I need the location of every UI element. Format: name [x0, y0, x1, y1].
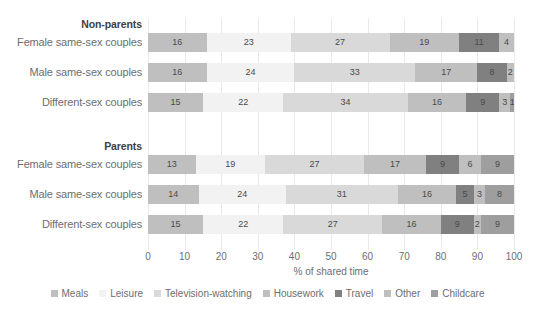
bar-segment-meals[interactable]: 13: [148, 155, 196, 174]
bar-segment-value: 16: [172, 38, 182, 47]
bar-segment-housework[interactable]: 16: [382, 215, 441, 234]
bar-segment-value: 27: [310, 160, 320, 169]
x-tick-label: 90: [472, 251, 483, 262]
bar-row[interactable]: 15222716929: [148, 215, 514, 234]
group-header-parents: Parents: [0, 140, 142, 152]
bar-segment-value: 34: [341, 98, 351, 107]
bar-segment-meals[interactable]: 15: [148, 215, 203, 234]
bar-segment-value: 27: [328, 220, 338, 229]
bar-segment-travel[interactable]: 9: [466, 93, 499, 112]
bar-segment-television-watching[interactable]: 27: [265, 155, 364, 174]
bar-segment-childcare[interactable]: 1: [510, 93, 514, 112]
bar-segment-value: 17: [441, 68, 451, 77]
legend-label: Leisure: [110, 288, 143, 299]
bar-segment-leisure[interactable]: 24: [207, 63, 295, 82]
legend-label: Other: [395, 288, 420, 299]
bar-segment-childcare[interactable]: 9: [481, 215, 514, 234]
bar-segment-value: 17: [390, 160, 400, 169]
bar-segment-value: 19: [419, 38, 429, 47]
bar-segment-other[interactable]: 2: [507, 63, 514, 82]
x-axis-title: % of shared time: [148, 266, 514, 277]
bar-segment-meals[interactable]: 15: [148, 93, 203, 112]
bar-segment-meals[interactable]: 16: [148, 33, 207, 52]
bar-segment-leisure[interactable]: 22: [203, 93, 284, 112]
bar-segment-meals[interactable]: 14: [148, 185, 199, 204]
bar-segment-childcare[interactable]: 8: [485, 185, 514, 204]
legend-item-television-watching[interactable]: Television-watching: [154, 288, 252, 299]
bar-segment-value: 5: [463, 190, 468, 199]
bar-segment-travel[interactable]: 9: [441, 215, 474, 234]
bar-segment-travel[interactable]: 5: [456, 185, 474, 204]
x-tick-label: 10: [179, 251, 190, 262]
bar-row[interactable]: 14243116538: [148, 185, 514, 204]
bar-segment-television-watching[interactable]: 34: [283, 93, 407, 112]
bar-segment-travel[interactable]: 8: [477, 63, 506, 82]
legend-swatch-icon: [335, 290, 342, 297]
bar-segment-value: 2: [475, 220, 480, 229]
bar-segment-value: 9: [495, 220, 500, 229]
bar-segment-value: 23: [244, 38, 254, 47]
bar-segment-meals[interactable]: 16: [148, 63, 207, 82]
bar-segment-value: 16: [406, 220, 416, 229]
bar-segment-travel[interactable]: 11: [459, 33, 499, 52]
bar-segment-television-watching[interactable]: 27: [283, 215, 382, 234]
bar-segment-value: 31: [337, 190, 347, 199]
legend-item-housework[interactable]: Housework: [263, 288, 324, 299]
bar-segment-television-watching[interactable]: 31: [286, 185, 398, 204]
bar-segment-value: 2: [508, 68, 513, 77]
bar-segment-housework[interactable]: 17: [364, 155, 426, 174]
bar-segment-value: 6: [468, 160, 473, 169]
bar-segment-leisure[interactable]: 24: [199, 185, 286, 204]
bar-segment-value: 22: [238, 98, 248, 107]
legend-item-childcare[interactable]: Childcare: [431, 288, 484, 299]
bar-segment-value: 8: [497, 190, 502, 199]
category-label: Different-sex couples: [0, 218, 142, 230]
bar-segment-leisure[interactable]: 22: [203, 215, 284, 234]
bar-segment-other[interactable]: 4: [499, 33, 514, 52]
bar-segment-value: 27: [335, 38, 345, 47]
bar-segment-value: 9: [480, 98, 485, 107]
bar-segment-childcare[interactable]: 9: [481, 155, 514, 174]
legend-item-other[interactable]: Other: [384, 288, 420, 299]
bar-segment-housework[interactable]: 19: [390, 33, 460, 52]
bar-row[interactable]: 1624331782: [148, 63, 514, 82]
bar-segment-value: 11: [475, 38, 484, 47]
bar-segment-other[interactable]: 6: [459, 155, 481, 174]
bar-row[interactable]: 13192717969: [148, 155, 514, 174]
legend-item-meals[interactable]: Meals: [51, 288, 89, 299]
bar-segment-value: 15: [170, 98, 180, 107]
bar-segment-housework[interactable]: 17: [415, 63, 477, 82]
stacked-bar-chart: Non-parentsFemale same-sex couples162327…: [0, 0, 535, 317]
bar-segment-value: 8: [489, 68, 494, 77]
x-tick-label: 80: [435, 251, 446, 262]
bar-segment-value: 9: [440, 160, 445, 169]
legend-item-travel[interactable]: Travel: [335, 288, 373, 299]
bar-row[interactable]: 15223416931: [148, 93, 514, 112]
legend-swatch-icon: [51, 290, 58, 297]
legend-swatch-icon: [154, 290, 161, 297]
bar-segment-leisure[interactable]: 23: [207, 33, 291, 52]
bar-segment-value: 14: [168, 190, 178, 199]
group-header-non-parents: Non-parents: [0, 18, 142, 30]
chart-legend: MealsLeisureTelevision-watchingHousework…: [0, 288, 535, 299]
bar-segment-other[interactable]: 3: [474, 185, 485, 204]
gridline-100: [514, 18, 515, 250]
legend-item-leisure[interactable]: Leisure: [99, 288, 143, 299]
bar-segment-leisure[interactable]: 19: [196, 155, 266, 174]
bar-segment-housework[interactable]: 16: [398, 185, 456, 204]
x-axis-ticks: 0102030405060708090100: [148, 250, 514, 266]
bar-segment-other[interactable]: 2: [474, 215, 481, 234]
bar-segment-value: 33: [350, 68, 360, 77]
legend-label: Television-watching: [165, 288, 252, 299]
bar-segment-value: 19: [225, 160, 235, 169]
legend-label: Housework: [274, 288, 324, 299]
bar-segment-housework[interactable]: 16: [408, 93, 467, 112]
legend-swatch-icon: [431, 290, 438, 297]
x-tick-label: 40: [289, 251, 300, 262]
bar-segment-travel[interactable]: 9: [426, 155, 459, 174]
category-label: Female same-sex couples: [0, 158, 142, 170]
bar-row[interactable]: 16232719114: [148, 33, 514, 52]
bar-segment-television-watching[interactable]: 27: [291, 33, 390, 52]
bar-segment-television-watching[interactable]: 33: [294, 63, 415, 82]
bar-segment-value: 3: [502, 98, 507, 107]
